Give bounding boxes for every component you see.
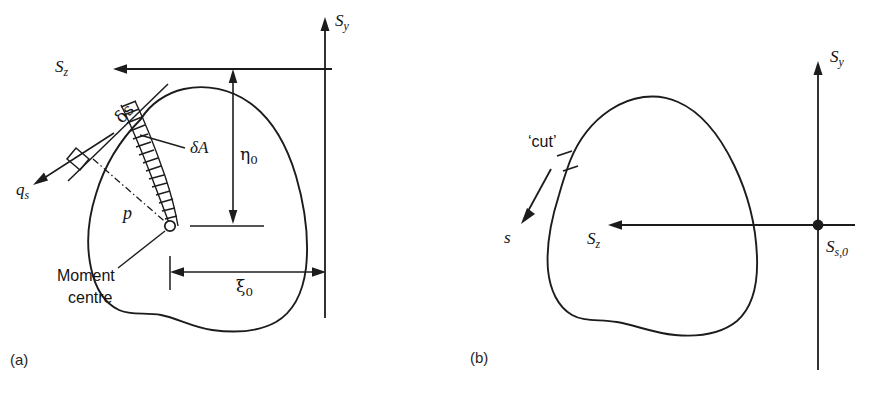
moment-centre-label-line2-a: centre: [68, 290, 112, 306]
axis-label-sy-b: Sy: [830, 48, 844, 69]
section-outline-b: [548, 96, 758, 335]
moment-arm-label-a: p: [123, 204, 132, 222]
shear-flow-at-cut-label-b: Ss,0: [826, 238, 848, 259]
panel-caption-a: (a): [10, 352, 28, 367]
moment-centre-leader-a: [118, 231, 165, 268]
element-area-label-a: δA: [190, 139, 208, 156]
axis-label-sy-a: Sy: [335, 12, 349, 33]
axis-label-sz-b: Sz: [587, 230, 600, 251]
moment-centre-node-a: [165, 221, 175, 231]
panel-caption-b: (b): [470, 350, 488, 365]
shear-flow-label-a: qs: [16, 181, 29, 202]
axis-sy-b: [814, 61, 823, 370]
moment-centre-label-line1-a: Moment: [57, 268, 115, 284]
arc-direction-arrow-b: [521, 169, 551, 224]
panel-b-graphics: [521, 61, 855, 370]
dimension-label-eta0-a: η0: [240, 146, 258, 167]
axis-sz-a: [113, 64, 332, 74]
axis-label-sz-a: Sz: [55, 58, 68, 79]
figure-root: Sy Sz δs δA qs p Moment centre η0 ξ0 (a)…: [0, 0, 890, 395]
figure-canvas: [0, 0, 890, 395]
cut-label-b: ‘cut’: [528, 134, 556, 150]
element-area-leader-a: [140, 135, 185, 148]
arc-coordinate-label-b: s: [504, 229, 511, 246]
shear-flow-node-b: [813, 220, 824, 231]
panel-a-graphics: [33, 17, 332, 331]
dimension-label-xi0-a: ξ0: [236, 278, 253, 299]
